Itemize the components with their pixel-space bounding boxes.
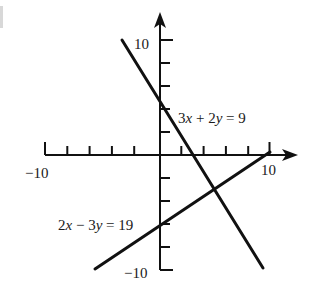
y-max-label: 10 [134, 36, 149, 52]
x-axis [45, 142, 290, 155]
edge-artifact [0, 6, 3, 28]
y-min-label: −10 [124, 265, 147, 281]
x-max-label: 10 [261, 162, 276, 178]
x-min-label: −10 [25, 165, 48, 181]
line-2x-minus-3y-eq-19 [95, 152, 270, 269]
equation-label-2: 2x − 3y = 19 [58, 217, 133, 233]
coordinate-graph: −10 10 10 −10 3x + 2y = 9 2x − 3y = 19 [0, 0, 310, 295]
equation-label-1: 3x + 2y = 9 [178, 110, 246, 126]
y-axis [160, 22, 173, 270]
